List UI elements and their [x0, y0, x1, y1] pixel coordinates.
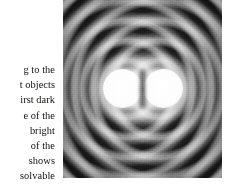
caption-line-1: g to the — [0, 62, 58, 77]
caption-line-4: e of the — [0, 108, 58, 123]
caption-line-8: solvable — [0, 168, 58, 183]
caption-line-5: bright — [0, 123, 58, 138]
caption-line-2: t objects — [0, 77, 58, 92]
airy-diffraction-photograph — [63, 0, 222, 178]
caption-line-7: shows — [0, 153, 58, 168]
plate-vignette — [63, 0, 222, 178]
caption-line-3: irst dark — [0, 92, 58, 107]
figure-page: g to the t objects irst dark e of the br… — [0, 0, 244, 190]
figure-caption: g to the t objects irst dark e of the br… — [0, 62, 58, 184]
caption-line-6: of the — [0, 138, 58, 153]
